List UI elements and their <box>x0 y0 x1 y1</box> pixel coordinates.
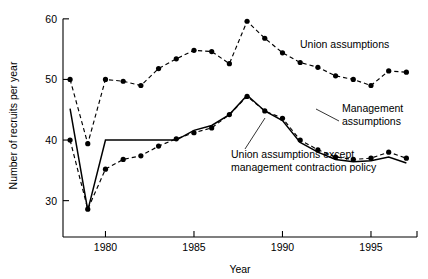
data-point-marker <box>244 94 249 99</box>
y-axis-title: Number of recruits per year <box>7 61 19 189</box>
chart-plot-area: 30405060 1980198519901995 Union assumpti… <box>0 0 428 279</box>
data-point-marker <box>386 150 391 155</box>
data-point-marker <box>351 77 356 82</box>
data-point-marker <box>368 83 373 88</box>
data-point-marker <box>67 77 72 82</box>
y-axis-ticks <box>63 19 69 201</box>
management-label-leader-line <box>316 109 339 121</box>
data-point-marker <box>156 66 161 71</box>
y-axis-tick-labels: 30405060 <box>45 13 57 207</box>
data-point-marker <box>244 19 249 24</box>
x-axis-tick-labels: 1980198519901995 <box>94 241 383 253</box>
data-point-marker <box>191 130 196 135</box>
y-axis-tick-label: 50 <box>45 73 57 85</box>
data-point-marker <box>85 141 90 146</box>
data-point-marker <box>174 56 179 61</box>
data-point-marker <box>404 156 409 161</box>
data-point-marker <box>298 60 303 65</box>
data-point-marker <box>121 157 126 162</box>
data-point-marker <box>103 167 108 172</box>
y-axis-tick-label: 30 <box>45 195 57 207</box>
union-except-label-leader-line <box>245 118 265 149</box>
data-point-marker <box>138 83 143 88</box>
data-point-marker <box>191 48 196 53</box>
data-point-marker <box>280 50 285 55</box>
data-point-marker <box>404 70 409 75</box>
data-point-marker <box>174 136 179 141</box>
annotation-union-assumptions: Union assumptions <box>300 38 389 50</box>
x-axis-tick-label: 1985 <box>182 241 206 253</box>
data-point-marker <box>280 116 285 121</box>
chart-figure: 30405060 1980198519901995 Union assumpti… <box>0 0 428 279</box>
x-axis-tick-label: 1990 <box>271 241 295 253</box>
x-axis-ticks <box>105 231 417 237</box>
data-point-marker <box>85 207 90 212</box>
y-axis-tick-label: 60 <box>45 13 57 25</box>
x-axis-title: Year <box>229 263 251 275</box>
data-point-marker <box>227 61 232 66</box>
annotation-union-except-contraction-line1: Union assumptions except <box>231 148 354 160</box>
data-point-marker <box>262 36 267 41</box>
data-point-marker <box>298 137 303 142</box>
annotation-management-assumptions-line1: Management <box>342 102 403 114</box>
data-point-marker <box>227 112 232 117</box>
x-axis-tick-label: 1995 <box>359 241 383 253</box>
data-point-marker <box>209 49 214 54</box>
data-point-marker <box>315 65 320 70</box>
data-point-marker <box>333 73 338 78</box>
data-point-marker <box>262 108 267 113</box>
data-point-marker <box>121 79 126 84</box>
data-point-marker <box>209 125 214 130</box>
data-point-marker <box>103 77 108 82</box>
y-axis-tick-label: 40 <box>45 134 57 146</box>
data-point-marker <box>386 68 391 73</box>
x-axis-tick-label: 1980 <box>94 241 118 253</box>
data-point-marker <box>138 153 143 158</box>
annotation-union-except-contraction-line2: management contraction policy <box>231 161 377 173</box>
data-point-marker <box>156 144 161 149</box>
annotation-management-assumptions-line2: assumptions <box>342 115 401 127</box>
data-point-marker <box>67 137 72 142</box>
